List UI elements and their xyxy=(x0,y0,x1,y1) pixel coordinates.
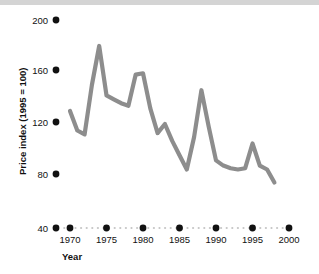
x-tick-dot-1975 xyxy=(103,225,110,232)
x-axis-tick-dots xyxy=(67,225,293,232)
y-axis-title-text: Price index (1995 = 100) xyxy=(17,68,28,175)
x-axis-tick-labels: 1970 1975 1980 1985 1990 1995 2000 xyxy=(59,234,299,245)
y-tick-label-160: 160 xyxy=(32,65,48,76)
y-axis-tick-dots xyxy=(53,17,60,232)
y-tick-label-80: 80 xyxy=(37,169,48,180)
y-axis-title: Price index (1995 = 100) xyxy=(17,68,28,175)
chart-svg: Price index (1995 = 100) 200 160 120 80 … xyxy=(0,0,319,274)
x-tick-dot-1995 xyxy=(249,225,256,232)
y-tick-dot-200 xyxy=(53,17,60,24)
y-tick-dot-120 xyxy=(53,119,60,126)
x-tick-dot-1990 xyxy=(213,225,220,232)
x-axis-title-text: Year xyxy=(62,251,82,262)
y-tick-dot-40 xyxy=(53,225,60,232)
y-tick-label-120: 120 xyxy=(32,117,48,128)
y-tick-dot-80 xyxy=(53,171,60,178)
x-tick-dot-1980 xyxy=(140,225,147,232)
x-tick-label-2000: 2000 xyxy=(278,234,299,245)
x-tick-dot-1985 xyxy=(176,225,183,232)
price-index-line-chart: Price index (1995 = 100) 200 160 120 80 … xyxy=(0,0,319,274)
y-axis-tick-labels: 200 160 120 80 40 xyxy=(32,15,48,234)
x-tick-dot-2000 xyxy=(286,225,293,232)
x-tick-label-1970: 1970 xyxy=(59,234,80,245)
y-tick-dot-160 xyxy=(53,67,60,74)
y-tick-label-200: 200 xyxy=(32,15,48,26)
x-tick-label-1990: 1990 xyxy=(205,234,226,245)
price-index-series-line xyxy=(70,46,274,183)
x-tick-label-1985: 1985 xyxy=(169,234,190,245)
x-tick-dot-1970 xyxy=(67,225,74,232)
x-tick-label-1995: 1995 xyxy=(242,234,263,245)
y-tick-label-40: 40 xyxy=(37,223,48,234)
x-tick-label-1975: 1975 xyxy=(96,234,117,245)
x-tick-label-1980: 1980 xyxy=(132,234,153,245)
